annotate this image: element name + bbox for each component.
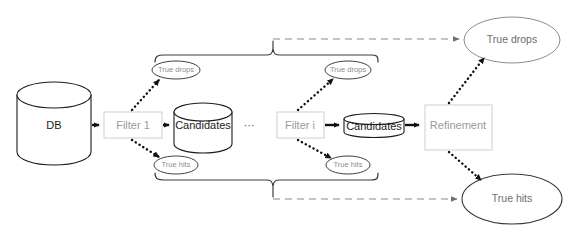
candidates-i-label: Candidates <box>346 120 402 132</box>
node-filter-i: Filter i <box>277 112 324 138</box>
filter-1-label: Filter 1 <box>116 119 150 131</box>
true-drops-i-label: True drops <box>330 65 366 74</box>
refinement-label: Refinement <box>430 119 486 131</box>
true-drops-1-label: True drops <box>158 65 194 74</box>
node-true-drops-i: True drops <box>325 61 371 79</box>
true-hits-1-label: True hits <box>162 160 191 169</box>
node-refinement: Refinement <box>425 105 492 150</box>
db-label: DB <box>46 119 61 131</box>
node-db: DB <box>17 82 91 165</box>
filter-i-label: Filter i <box>285 119 315 131</box>
db-cylinder-top <box>17 82 91 108</box>
node-candidates-1: Candidates <box>174 103 232 153</box>
pipeline-diagram-canvas: DB Filter 1 Candidates ··· Filter i Cand… <box>0 0 571 236</box>
node-candidates-i: Candidates <box>344 114 404 138</box>
node-true-drops-1: True drops <box>152 61 200 79</box>
true-hits-i-label: True hits <box>334 160 363 169</box>
node-true-hits-total: True hits <box>462 174 562 224</box>
pipeline-ellipsis: ··· <box>244 119 255 131</box>
node-true-drops-total: True drops <box>464 17 560 63</box>
pipeline-diagram-svg: DB Filter 1 Candidates ··· Filter i Cand… <box>0 0 571 236</box>
candidates-1-label: Candidates <box>175 119 231 131</box>
true-hits-total-label: True hits <box>492 192 532 204</box>
true-drops-total-label: True drops <box>487 33 537 45</box>
node-filter-1: Filter 1 <box>104 112 162 138</box>
node-true-hits-1: True hits <box>154 156 198 174</box>
node-true-hits-i: True hits <box>326 156 370 174</box>
